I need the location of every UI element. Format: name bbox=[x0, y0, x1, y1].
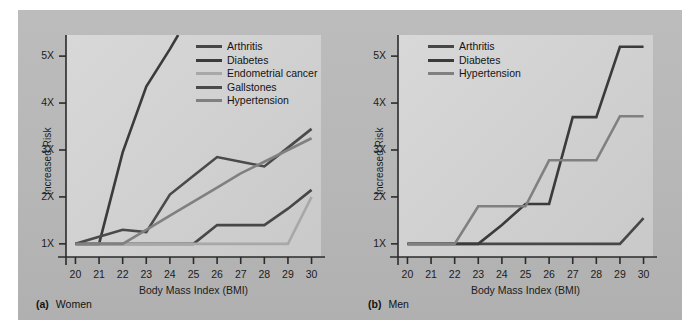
legend-item-arthritis: Arthritis bbox=[428, 40, 521, 54]
series-line-hypertension bbox=[407, 116, 643, 244]
legend-item-hypertension: Hypertension bbox=[428, 67, 521, 81]
series-line-gallstones bbox=[75, 129, 311, 244]
y-axis-label-women: Increased Risk bbox=[42, 127, 53, 195]
x-tick-label: 28 bbox=[252, 268, 276, 280]
legend-item-arthritis: Arthritis bbox=[196, 40, 317, 54]
x-tick-label: 27 bbox=[561, 268, 585, 280]
y-tick-label: 3X bbox=[350, 143, 386, 155]
chart-panel-men: Increased Risk Body Mass Index (BMI) Art… bbox=[350, 10, 682, 320]
x-tick-label: 30 bbox=[300, 268, 324, 280]
legend-swatch-gallstones bbox=[196, 86, 222, 89]
caption-tag-women: (a) bbox=[36, 298, 49, 310]
series-line-arthritis bbox=[407, 218, 643, 244]
legend-label-arthritis: Arthritis bbox=[459, 40, 495, 54]
legend-swatch-arthritis bbox=[196, 45, 222, 48]
series-line-hypertension bbox=[75, 138, 311, 244]
chart-panel-women: Increased Risk Body Mass Index (BMI) Art… bbox=[18, 10, 350, 320]
legend-label-gallstones: Gallstones bbox=[227, 81, 277, 95]
legend-swatch-hypertension bbox=[196, 99, 222, 102]
y-tick-label: 2X bbox=[18, 190, 54, 202]
y-tick-label: 4X bbox=[350, 96, 386, 108]
legend-swatch-diabetes bbox=[428, 59, 454, 62]
x-tick-label: 23 bbox=[466, 268, 490, 280]
series-line-endometrial-cancer bbox=[75, 197, 311, 244]
x-tick-label: 30 bbox=[632, 268, 656, 280]
x-tick-label: 20 bbox=[63, 268, 87, 280]
x-tick-label: 28 bbox=[584, 268, 608, 280]
y-tick-label: 4X bbox=[18, 96, 54, 108]
legend-item-gallstones: Gallstones bbox=[196, 81, 317, 95]
legend-swatch-diabetes bbox=[196, 59, 222, 62]
x-tick-label: 26 bbox=[537, 268, 561, 280]
series-line-diabetes bbox=[75, 35, 178, 244]
x-axis-label-men: Body Mass Index (BMI) bbox=[398, 284, 653, 296]
y-tick-label: 5X bbox=[18, 49, 54, 61]
x-tick-label: 22 bbox=[443, 268, 467, 280]
caption-name-men: Men bbox=[388, 298, 408, 310]
x-axis-label-women: Body Mass Index (BMI) bbox=[66, 284, 321, 296]
x-tick-label: 27 bbox=[229, 268, 253, 280]
legend-item-hypertension: Hypertension bbox=[196, 94, 317, 108]
x-tick-label: 21 bbox=[419, 268, 443, 280]
y-tick-label: 3X bbox=[18, 143, 54, 155]
x-tick-label: 20 bbox=[395, 268, 419, 280]
x-tick-label: 25 bbox=[182, 268, 206, 280]
x-tick-label: 24 bbox=[490, 268, 514, 280]
legend-swatch-hypertension bbox=[428, 72, 454, 75]
y-tick-label: 5X bbox=[350, 49, 386, 61]
x-tick-label: 24 bbox=[158, 268, 182, 280]
x-tick-label: 26 bbox=[205, 268, 229, 280]
legend-women: Arthritis Diabetes Endometrial cancer Ga… bbox=[196, 40, 317, 108]
y-tick-label: 1X bbox=[18, 237, 54, 249]
legend-label-hypertension: Hypertension bbox=[227, 94, 289, 108]
x-tick-label: 29 bbox=[276, 268, 300, 280]
caption-women: (a)Women bbox=[36, 298, 92, 310]
legend-swatch-arthritis bbox=[428, 45, 454, 48]
legend-swatch-endometrial-cancer bbox=[196, 72, 222, 75]
legend-label-hypertension: Hypertension bbox=[459, 67, 521, 81]
legend-item-diabetes: Diabetes bbox=[196, 54, 317, 68]
legend-item-endometrial-cancer: Endometrial cancer bbox=[196, 67, 317, 81]
x-tick-label: 29 bbox=[608, 268, 632, 280]
legend-men: Arthritis Diabetes Hypertension bbox=[428, 40, 521, 81]
y-tick-label: 2X bbox=[350, 190, 386, 202]
x-tick-label: 22 bbox=[111, 268, 135, 280]
legend-label-diabetes: Diabetes bbox=[459, 54, 500, 68]
legend-item-diabetes: Diabetes bbox=[428, 54, 521, 68]
caption-name-women: Women bbox=[56, 298, 92, 310]
x-tick-label: 21 bbox=[87, 268, 111, 280]
x-tick-label: 23 bbox=[134, 268, 158, 280]
y-tick-label: 1X bbox=[350, 237, 386, 249]
caption-men: (b)Men bbox=[368, 298, 409, 310]
y-axis-label-men: Increased Risk bbox=[374, 127, 385, 195]
x-tick-label: 25 bbox=[514, 268, 538, 280]
legend-label-arthritis: Arthritis bbox=[227, 40, 263, 54]
caption-tag-men: (b) bbox=[368, 298, 381, 310]
legend-label-endometrial-cancer: Endometrial cancer bbox=[227, 67, 317, 81]
legend-label-diabetes: Diabetes bbox=[227, 54, 268, 68]
figure-panel: Increased Risk Body Mass Index (BMI) Art… bbox=[18, 10, 682, 320]
